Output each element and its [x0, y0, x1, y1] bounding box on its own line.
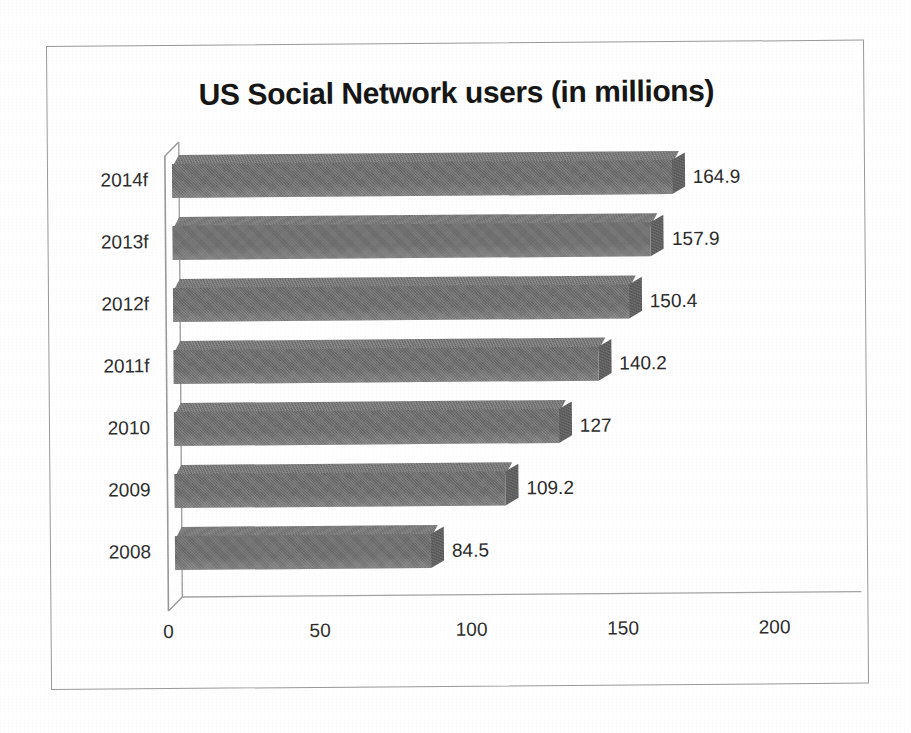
- data-label-2013f: 157.9: [672, 228, 720, 250]
- bar-row[interactable]: 200884.5: [51, 518, 869, 571]
- bar-front-face: [173, 284, 629, 322]
- bar-front-face: [172, 160, 672, 198]
- bar-2013f[interactable]: [172, 209, 664, 260]
- bar-end-cap: [431, 526, 444, 568]
- bar-row[interactable]: 2011f140.2: [49, 332, 867, 385]
- chart-title: US Social Network users (in millions): [47, 73, 865, 113]
- chart-inner: US Social Network users (in millions) 20…: [47, 41, 870, 691]
- x-tick-150: 150: [607, 617, 639, 639]
- bar-end-cap: [598, 339, 611, 381]
- category-label-2012f: 2012f: [49, 293, 149, 316]
- bar-row[interactable]: 2009109.2: [50, 456, 868, 509]
- bar-front-face: [174, 409, 559, 446]
- scanned-page: US Social Network users (in millions) 20…: [0, 0, 911, 733]
- plot-area: 2014f164.92013f157.92012f150.42011f140.2…: [48, 137, 870, 613]
- bars-layer: 2014f164.92013f157.92012f150.42011f140.2…: [48, 137, 870, 613]
- category-label-2014f: 2014f: [48, 169, 148, 192]
- bar-row[interactable]: 2012f150.4: [49, 270, 867, 323]
- data-label-2011f: 140.2: [619, 352, 667, 374]
- bar-end-cap: [559, 401, 572, 443]
- x-tick-100: 100: [456, 619, 488, 641]
- data-label-2008: 84.5: [452, 540, 489, 562]
- bar-front-face: [174, 471, 505, 508]
- data-label-2009: 109.2: [526, 477, 574, 499]
- category-label-2008: 2008: [51, 541, 151, 564]
- x-tick-0: 0: [163, 621, 174, 643]
- bar-row[interactable]: 2014f164.9: [48, 146, 866, 199]
- category-label-2011f: 2011f: [49, 355, 149, 378]
- x-tick-50: 50: [309, 620, 330, 642]
- category-label-2013f: 2013f: [48, 231, 148, 254]
- bar-end-cap: [505, 464, 518, 506]
- chart-frame: US Social Network users (in millions) 20…: [46, 40, 869, 690]
- data-label-2010: 127: [580, 415, 612, 437]
- bar-row[interactable]: 2010127: [50, 394, 868, 447]
- x-axis-tick-labels: 050100150200: [52, 616, 870, 662]
- bar-2011f[interactable]: [173, 334, 611, 384]
- category-label-2010: 2010: [50, 417, 150, 440]
- bar-2012f[interactable]: [173, 271, 642, 322]
- bar-front-face: [175, 534, 431, 570]
- bar-2010[interactable]: [174, 396, 572, 446]
- data-label-2014f: 164.9: [693, 166, 741, 188]
- bar-row[interactable]: 2013f157.9: [48, 208, 866, 261]
- bar-end-cap: [629, 277, 642, 319]
- bar-front-face: [173, 347, 598, 384]
- data-label-2012f: 150.4: [650, 290, 698, 312]
- bar-2008[interactable]: [175, 521, 444, 570]
- bar-end-cap: [672, 152, 685, 194]
- x-tick-200: 200: [759, 616, 791, 638]
- bar-2014f[interactable]: [172, 147, 685, 198]
- category-label-2009: 2009: [50, 479, 150, 502]
- bar-end-cap: [651, 215, 664, 257]
- bar-front-face: [172, 222, 651, 260]
- bar-2009[interactable]: [174, 458, 518, 508]
